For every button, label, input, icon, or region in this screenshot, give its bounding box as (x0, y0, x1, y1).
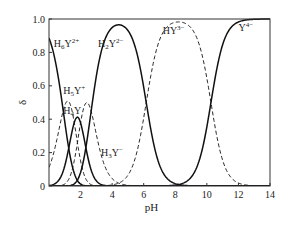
plot-frame (49, 19, 270, 186)
x-tick-label: 8 (173, 189, 178, 200)
y-tick-label: 0.4 (33, 114, 46, 125)
x-tick-label: 10 (202, 189, 212, 200)
x-tick-label: 6 (141, 189, 146, 200)
series-label-y4-: Y4− (238, 21, 253, 33)
x-tick-label: 12 (233, 189, 243, 200)
series-label-h6y2-: H6Y2+ (54, 37, 79, 51)
series-line-h4y (49, 117, 270, 186)
y-tick-label: 1.0 (33, 14, 46, 25)
y-tick-label: 0.2 (33, 147, 46, 158)
series-label-h2y2-: H2Y2− (98, 37, 123, 51)
series-line-h5y- (49, 101, 270, 186)
series-label-h3y-: H3Y− (101, 146, 123, 160)
plot-lines (49, 19, 270, 186)
y-tick-label: 0.8 (33, 47, 46, 58)
y-tick-label: 0 (40, 181, 45, 192)
series-line-h2y2- (49, 25, 270, 186)
series-label-hy3-: HY3− (163, 24, 185, 36)
series-label-h4y: H4Y (63, 105, 81, 118)
x-tick-label: 4 (110, 189, 115, 200)
series-line-hy3- (49, 22, 270, 186)
series-line-h3y- (49, 103, 270, 186)
x-tick-label: 2 (78, 189, 83, 200)
series-line-y4- (49, 19, 270, 186)
x-tick-label: 14 (265, 189, 275, 200)
y-tick-label: 0.6 (33, 80, 46, 91)
species-distribution-chart: H6Y2+H5Y+H4YH3Y−H2Y2−HY3−Y4− 2468101214 … (0, 0, 284, 226)
series-label-h5y-: H5Y+ (63, 84, 85, 98)
x-axis-title: pH (145, 201, 159, 213)
y-axis-title: δ (16, 100, 28, 105)
